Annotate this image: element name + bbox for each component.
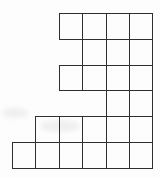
unit-square: [82, 65, 106, 92]
unit-square: [129, 39, 153, 66]
unit-square-grid: [0, 0, 160, 178]
unit-square: [59, 65, 83, 92]
unit-square: [59, 116, 83, 143]
unit-square: [35, 142, 59, 169]
unit-square: [59, 142, 83, 169]
unit-square: [106, 90, 130, 117]
unit-square: [106, 65, 130, 92]
unit-square: [129, 90, 153, 117]
unit-square: [35, 116, 59, 143]
unit-square: [129, 65, 153, 92]
unit-square: [59, 13, 83, 40]
unit-square: [106, 39, 130, 66]
unit-square: [106, 116, 130, 143]
unit-square: [106, 13, 130, 40]
unit-square: [82, 39, 106, 66]
figure-canvas: [0, 0, 160, 178]
unit-square: [129, 142, 153, 169]
unit-square: [82, 142, 106, 169]
unit-square: [129, 116, 153, 143]
unit-square: [12, 142, 36, 169]
unit-square: [129, 13, 153, 40]
unit-square: [82, 116, 106, 143]
unit-square: [106, 142, 130, 169]
unit-square: [82, 13, 106, 40]
